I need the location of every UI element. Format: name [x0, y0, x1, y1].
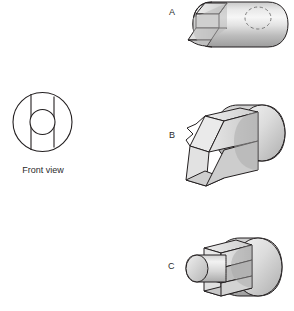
- front-view-caption: Front view: [12, 165, 74, 176]
- option-label-a: A: [169, 8, 175, 17]
- front-view-geometry: [13, 93, 72, 152]
- option-a-pictorial: [188, 2, 288, 47]
- front-view-center-hole: [30, 110, 55, 135]
- option-label-c: C: [168, 262, 175, 271]
- front-view-drawing: [0, 0, 294, 311]
- option-label-b: B: [169, 131, 175, 140]
- option-b-pictorial: [186, 105, 285, 186]
- option-c-pictorial: [186, 238, 282, 296]
- option-c-boss-end-cap: [186, 255, 208, 282]
- technical-drawing-figure: A B C Front view: [0, 0, 294, 311]
